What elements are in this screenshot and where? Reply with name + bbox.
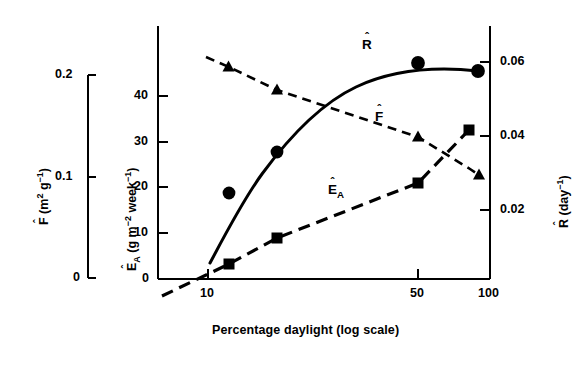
r-hat-markers (223, 56, 485, 199)
x-tick-label: 10 (200, 287, 214, 300)
r-hat-symbol: Rˆ (558, 219, 571, 228)
series-ea-hat (162, 125, 475, 297)
data-point-marker (223, 187, 236, 200)
ea-tick-label: 0 (142, 272, 149, 285)
data-point-marker (473, 169, 485, 180)
x-axis-title: Percentage daylight (log scale) (212, 324, 399, 337)
data-point-marker (413, 178, 424, 189)
f-hat-line (206, 57, 479, 175)
r-tick-label: 0.04 (500, 129, 524, 142)
r-tick-label: 0.06 (500, 55, 524, 68)
data-point-marker (411, 56, 425, 70)
ea-tick-label: 30 (134, 135, 148, 148)
data-point-marker (271, 84, 283, 95)
right-ticks (480, 62, 490, 210)
x-tick-label: 100 (478, 287, 499, 300)
data-point-marker (412, 131, 424, 142)
data-point-marker (224, 259, 235, 270)
ea-tick-label: 40 (134, 89, 148, 102)
figure-canvas: 10 50 100 Percentage daylight (log scale… (0, 0, 588, 365)
r-tick-label: 0.02 (500, 203, 524, 216)
axis-frame (158, 26, 490, 279)
series-label-r-hat: Rˆ (362, 38, 372, 52)
ea-hat-symbol: Eˆ (126, 263, 139, 271)
series-label-ea-hat: EˆA (328, 183, 344, 199)
x-ticks (208, 269, 490, 279)
right-axis-title: Rˆ (day−1) (556, 175, 571, 228)
left-inner-ticks (158, 96, 168, 279)
series-label-f-hat: Fˆ (375, 110, 383, 124)
data-point-marker (464, 125, 475, 136)
data-point-marker (471, 64, 485, 78)
f-hat-markers (223, 61, 486, 180)
f-hat-symbol: Fˆ (38, 217, 51, 225)
f-tick-label: 0.1 (55, 170, 72, 183)
ea-hat-markers (224, 125, 475, 270)
left-outer-spine (88, 75, 96, 278)
f-tick-label: 0.2 (55, 68, 72, 81)
series-f-hat (206, 57, 485, 180)
left-outer-axis-title: Fˆ (m2 g−1) (36, 168, 51, 225)
series-r-hat (210, 56, 485, 263)
left-inner-axis-title: EˆA (g m−2 week−1) (124, 168, 142, 271)
data-point-marker (272, 233, 283, 244)
f-tick-label: 0 (73, 271, 80, 284)
r-hat-line (210, 69, 478, 263)
data-point-marker (271, 146, 284, 159)
x-tick-label: 50 (410, 287, 424, 300)
